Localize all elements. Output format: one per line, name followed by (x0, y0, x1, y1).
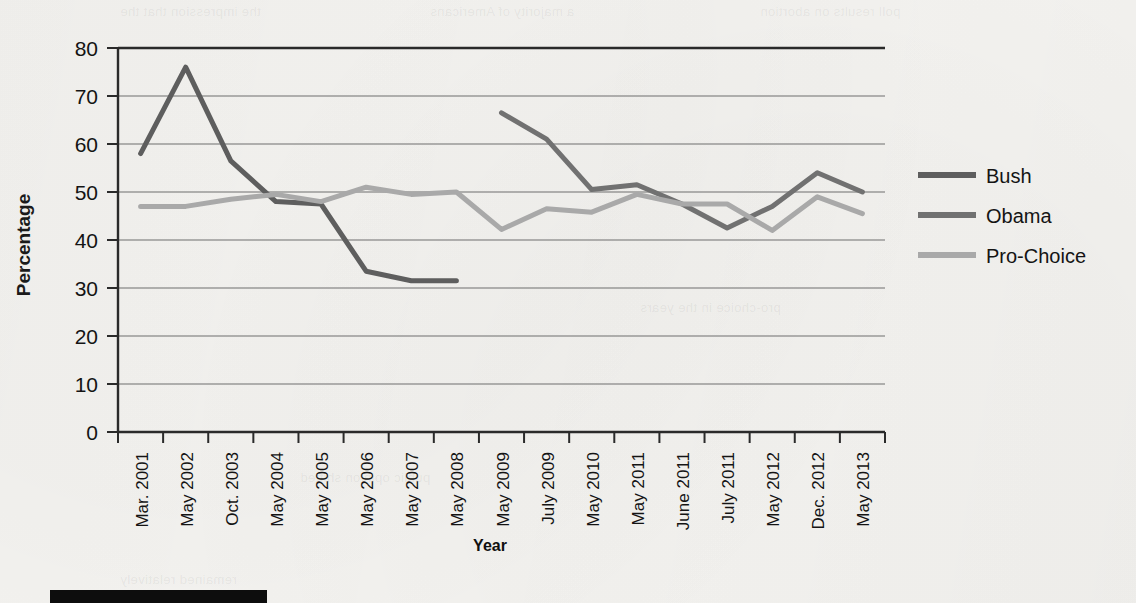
chart-canvas: 01020304050607080 Mar. 2001May 2002Oct. … (0, 0, 1136, 603)
x-tick-label: May 2011 (629, 452, 648, 525)
series-line-pro-choice (141, 187, 863, 230)
y-axis-title: Percentage (13, 194, 34, 296)
y-tick-label: 30 (75, 277, 98, 300)
y-axis-ticks (107, 48, 118, 432)
y-tick-label: 20 (75, 325, 98, 348)
x-tick-label: May 2008 (448, 452, 467, 527)
y-tick-label: 0 (86, 421, 98, 444)
chart-legend: BushObamaPro-Choice (918, 165, 1086, 267)
x-tick-label: May 2009 (494, 452, 513, 527)
legend-label-pro-choice: Pro-Choice (986, 245, 1086, 267)
x-tick-label: July 2011 (719, 452, 738, 524)
x-tick-label: Mar. 2001 (133, 452, 152, 528)
x-tick-label: May 2002 (178, 452, 197, 527)
y-tick-label: 50 (75, 181, 98, 204)
x-tick-label: May 2010 (584, 452, 603, 527)
x-tick-label: May 2004 (268, 452, 287, 527)
x-tick-label: Oct. 2003 (223, 452, 242, 526)
x-tick-label: May 2005 (313, 452, 332, 527)
x-tick-label: May 2013 (854, 452, 873, 527)
y-axis-tick-labels: 01020304050607080 (75, 37, 98, 444)
scanned-page: the impression that the a majority of Am… (0, 0, 1136, 603)
x-tick-label: July 2009 (539, 452, 558, 525)
x-tick-label: May 2007 (403, 452, 422, 527)
x-tick-label: May 2006 (358, 452, 377, 527)
redacted-caption-bar (50, 590, 267, 603)
y-tick-label: 70 (75, 85, 98, 108)
x-axis-tick-labels: Mar. 2001May 2002Oct. 2003May 2004May 20… (133, 452, 874, 530)
y-tick-label: 80 (75, 37, 98, 60)
line-chart: 01020304050607080 Mar. 2001May 2002Oct. … (0, 0, 1136, 603)
y-tick-label: 10 (75, 373, 98, 396)
legend-label-bush: Bush (986, 165, 1032, 187)
x-tick-label: June 2011 (674, 452, 693, 530)
x-tick-label: Dec. 2012 (809, 452, 828, 530)
data-series (141, 67, 863, 281)
y-tick-label: 60 (75, 133, 98, 156)
legend-label-obama: Obama (986, 205, 1052, 227)
x-axis-title: Year (473, 537, 507, 554)
y-tick-label: 40 (75, 229, 98, 252)
x-tick-label: May 2012 (764, 452, 783, 527)
series-line-bush (141, 67, 457, 281)
x-axis-ticks (118, 432, 885, 443)
gridlines (118, 48, 885, 384)
